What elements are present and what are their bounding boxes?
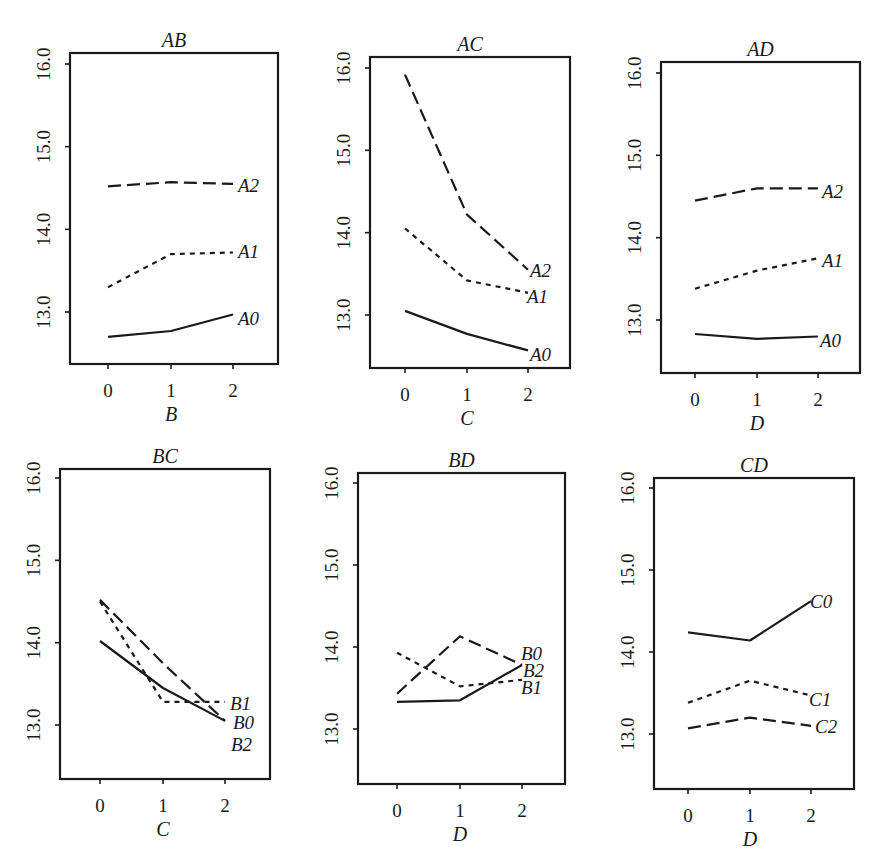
series-line-c1: [688, 681, 811, 703]
y-tick-label: 14.0: [624, 221, 645, 254]
panel-title: AB: [160, 29, 186, 51]
x-axis-label: D: [742, 828, 758, 850]
x-tick-label: 1: [166, 380, 176, 401]
series-label-a1: A1: [236, 241, 259, 262]
series-label-a0: A0: [528, 344, 552, 365]
x-tick-label: 0: [95, 795, 105, 816]
series-label-a0: A0: [818, 330, 842, 351]
x-tick-label: 1: [462, 384, 472, 405]
panel-bc: BC13.014.015.016.0012CB1B0B2: [23, 445, 270, 840]
x-tick-label: 0: [103, 380, 113, 401]
y-tick-label: 15.0: [333, 134, 354, 167]
series-line-a0: [695, 334, 818, 339]
x-axis-label: C: [156, 818, 170, 840]
y-tick-label: 16.0: [333, 51, 354, 84]
series-line-a2: [108, 182, 233, 186]
series-line-a1: [695, 258, 818, 288]
x-tick-label: 1: [745, 805, 755, 826]
series-label-a1: A1: [820, 250, 843, 271]
y-tick-label: 15.0: [321, 548, 342, 581]
x-tick-label: 2: [228, 380, 238, 401]
series-label-a2: A2: [820, 181, 844, 202]
y-tick-label: 14.0: [321, 630, 342, 663]
plot-frame: [661, 62, 860, 373]
series-label-b2: B2: [231, 734, 253, 755]
panel-title: AC: [455, 33, 483, 55]
series-line-b1: [397, 653, 522, 687]
y-tick-label: 13.0: [624, 303, 645, 336]
y-tick-label: 14.0: [33, 213, 54, 246]
y-tick-label: 16.0: [624, 56, 645, 89]
series-label-b1: B1: [521, 677, 542, 698]
series-label-a2: A2: [236, 175, 260, 196]
series-label-c0: C0: [810, 591, 833, 612]
panel-ac: AC13.014.015.016.0012CA2A1A0: [333, 33, 570, 429]
y-tick-label: 14.0: [333, 216, 354, 249]
panel-title: BD: [448, 449, 475, 471]
series-line-a2: [695, 188, 818, 200]
series-line-a0: [405, 311, 528, 351]
y-tick-label: 16.0: [33, 47, 54, 80]
panel-ad: AD13.014.015.016.0012DA2A1A0: [624, 38, 860, 434]
panel-bd: BD13.014.015.016.0012DB0B2B1: [321, 449, 565, 845]
series-label-b1: B1: [230, 693, 251, 714]
x-tick-label: 2: [813, 389, 823, 410]
series-label-a2: A2: [528, 260, 552, 281]
x-tick-label: 0: [690, 389, 700, 410]
y-tick-label: 13.0: [333, 298, 354, 331]
y-tick-label: 13.0: [617, 717, 638, 750]
x-tick-label: 2: [523, 384, 533, 405]
series-line-c0: [688, 601, 811, 640]
x-tick-label: 0: [392, 800, 402, 821]
series-line-b0: [100, 641, 225, 721]
x-tick-label: 2: [220, 795, 230, 816]
panel-title: AD: [745, 38, 774, 60]
y-tick-label: 16.0: [23, 461, 44, 494]
y-tick-label: 14.0: [23, 626, 44, 659]
x-axis-label: B: [165, 403, 177, 425]
x-axis-label: C: [460, 407, 474, 429]
y-tick-label: 16.0: [617, 471, 638, 504]
x-tick-label: 2: [517, 800, 527, 821]
series-line-a2: [405, 75, 528, 270]
y-tick-label: 13.0: [23, 708, 44, 741]
y-tick-label: 15.0: [617, 553, 638, 586]
y-tick-label: 15.0: [33, 130, 54, 163]
series-line-a1: [405, 229, 528, 293]
plot-frame: [654, 478, 854, 789]
y-tick-label: 13.0: [321, 712, 342, 745]
x-axis-label: D: [452, 823, 468, 845]
series-line-a1: [108, 253, 233, 288]
x-tick-label: 1: [158, 795, 168, 816]
panel-title: BC: [152, 445, 178, 467]
panel-title: CD: [740, 454, 768, 476]
y-tick-label: 14.0: [617, 635, 638, 668]
interaction-plot-grid: AB13.014.015.016.0012BA2A1A0AC13.014.015…: [0, 0, 877, 857]
series-label-a1: A1: [525, 286, 548, 307]
y-tick-label: 16.0: [321, 466, 342, 499]
series-label-b0: B0: [233, 712, 255, 733]
series-label-c1: C1: [809, 689, 831, 710]
series-line-a0: [108, 315, 233, 337]
x-tick-label: 1: [752, 389, 762, 410]
x-axis-label: D: [749, 412, 765, 434]
series-line-b0: [397, 665, 522, 702]
series-line-c2: [688, 718, 811, 729]
x-tick-label: 2: [806, 805, 816, 826]
series-label-a0: A0: [236, 308, 260, 329]
x-tick-label: 0: [683, 805, 693, 826]
panel-cd: CD13.014.015.016.0012DC0C1C2: [617, 454, 854, 850]
plot-frame: [358, 473, 565, 784]
panel-ab: AB13.014.015.016.0012BA2A1A0: [33, 29, 278, 425]
x-tick-label: 1: [455, 800, 465, 821]
y-tick-label: 15.0: [624, 139, 645, 172]
y-tick-label: 13.0: [33, 295, 54, 328]
y-tick-label: 15.0: [23, 544, 44, 577]
series-label-c2: C2: [815, 716, 838, 737]
x-tick-label: 0: [400, 384, 410, 405]
plot-frame: [370, 57, 570, 368]
